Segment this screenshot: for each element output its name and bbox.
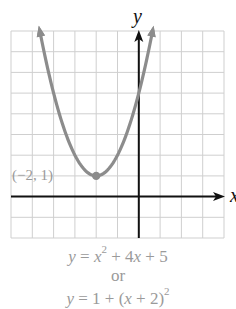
vertex-point [92,172,100,180]
equation-or-separator: or [0,266,236,286]
equation-standard-form: y = x2 + 4x + 5 [0,245,236,267]
x-axis-label: x [229,184,236,206]
equation-vertex-form: y = 1 + (x + 2)2 [0,287,236,309]
parabola-graph: (−2, 1) y x [0,0,236,245]
vertex-label: (−2, 1) [12,167,53,184]
y-axis-label: y [131,5,142,28]
grid-lines [11,31,224,238]
